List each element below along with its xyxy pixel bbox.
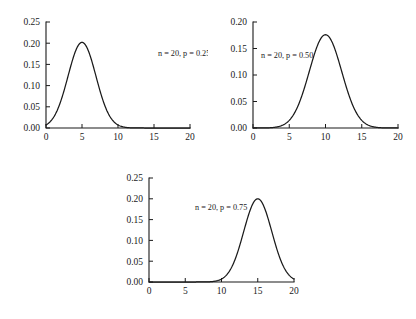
- y-tick-label: 0.10: [126, 236, 143, 246]
- y-tick-label: 0.20: [23, 39, 40, 49]
- x-tick-label: 10: [217, 286, 227, 296]
- y-tick-label: 0.00: [230, 123, 247, 133]
- y-tick-label: 0.15: [126, 215, 143, 225]
- x-tick-label: 5: [287, 132, 292, 142]
- y-tick-label: 0.25: [126, 173, 143, 183]
- x-tick-label: 20: [289, 286, 299, 296]
- y-tick-label: 0.00: [23, 123, 40, 133]
- y-tick-label: 0.15: [230, 44, 247, 54]
- y-tick-label: 0.10: [230, 70, 247, 80]
- y-tick-label: 0.10: [23, 81, 40, 91]
- chart-p050: 0.000.050.100.150.2005101520n = 20, p = …: [208, 0, 416, 160]
- y-tick-label: 0.05: [230, 97, 247, 107]
- x-tick-label: 20: [185, 132, 195, 142]
- y-tick-label: 0.05: [23, 102, 40, 112]
- chart-panel-binomial-p050: 0.000.050.100.150.2005101520n = 20, p = …: [208, 0, 416, 160]
- x-tick-label: 5: [80, 132, 85, 142]
- x-tick-label: 15: [253, 286, 263, 296]
- y-tick-label: 0.15: [23, 60, 40, 70]
- x-tick-label: 5: [183, 286, 188, 296]
- x-tick-label: 15: [357, 132, 367, 142]
- x-tick-label: 10: [113, 132, 123, 142]
- x-tick-label: 10: [321, 132, 331, 142]
- binomial-distributions-figure: 0.000.050.100.150.200.2505101520n = 20, …: [0, 0, 416, 319]
- chart-annotation: n = 20, p = 0.50: [261, 51, 313, 60]
- y-tick-label: 0.25: [23, 17, 40, 27]
- chart-p025: 0.000.050.100.150.200.2505101520n = 20, …: [0, 0, 208, 160]
- x-tick-label: 20: [393, 132, 403, 142]
- x-tick-label: 0: [147, 286, 152, 296]
- chart-p075: 0.000.050.100.150.200.2505101520n = 20, …: [104, 160, 312, 319]
- chart-panel-binomial-p075: 0.000.050.100.150.200.2505101520n = 20, …: [104, 160, 312, 319]
- chart-annotation: n = 20, p = 0.25: [158, 49, 208, 58]
- y-tick-label: 0.20: [126, 194, 143, 204]
- y-tick-label: 0.00: [126, 277, 143, 287]
- x-tick-label: 0: [251, 132, 256, 142]
- y-tick-label: 0.05: [126, 257, 143, 267]
- axis-lines: [46, 22, 190, 128]
- y-tick-label: 0.20: [230, 17, 247, 27]
- chart-annotation: n = 20, p = 0.75: [195, 203, 247, 212]
- distribution-curve: [253, 35, 398, 128]
- x-tick-label: 15: [149, 132, 159, 142]
- axis-lines: [149, 178, 294, 282]
- axis-lines: [253, 22, 398, 128]
- chart-panel-binomial-p025: 0.000.050.100.150.200.2505101520n = 20, …: [0, 0, 208, 160]
- x-tick-label: 0: [44, 132, 49, 142]
